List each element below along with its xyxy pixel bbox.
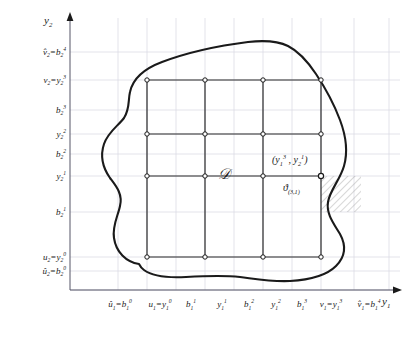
domain-label: 𝒟 [218, 166, 230, 183]
x-tick-label: v1=y13 [320, 298, 342, 311]
domain-boundary-curve [102, 41, 346, 281]
y-tick-label: v2=y23 [44, 74, 66, 87]
point-coordinate-label: (y13 , y21) [272, 153, 307, 167]
y-tick-label: b23 [56, 104, 66, 117]
cell-index-label: ϑ(3,1) [283, 182, 300, 195]
y-tick-label: b22 [56, 148, 66, 161]
x-tick-label: y12 [271, 298, 281, 311]
x-tick-label: v̂1=b14 [358, 298, 381, 311]
y-tick-label: v̂2=b24 [43, 46, 66, 59]
y-tick-label: u2=y20 [43, 251, 66, 264]
x-tick-label: b12 [244, 298, 254, 311]
x-tick-label: b13 [297, 298, 307, 311]
figure-container: y2 y1 v̂2=b24 v2=y23 b23 y22 b22 y21 b21… [0, 0, 417, 338]
background-gridlines [70, 18, 400, 290]
x-tick-label: b11 [186, 298, 196, 311]
x-tick-label: u1=y10 [149, 298, 172, 311]
x-tick-label: y11 [217, 298, 227, 311]
x-tick-label: û1=b10 [108, 298, 131, 311]
x-axis-arrow [393, 287, 402, 294]
y-tick-label: y22 [56, 128, 66, 141]
y-axis-arrow [67, 12, 74, 21]
x-axis-label: y1 [382, 295, 390, 309]
y-axis-label: y2 [44, 14, 52, 28]
y-tick-label: û2=b20 [43, 265, 66, 278]
y-tick-label: b21 [56, 206, 66, 219]
highlighted-node [318, 173, 323, 178]
y-tick-label: y21 [56, 170, 66, 183]
